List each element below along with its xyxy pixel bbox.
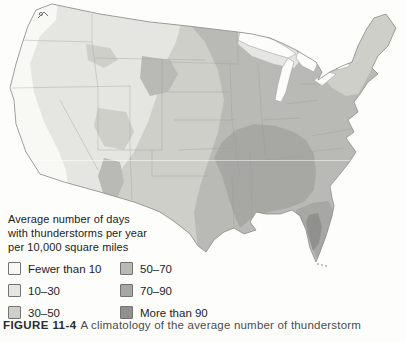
figure-label: FIGURE 11-4 — [3, 319, 76, 331]
legend-items: Fewer than 10 50–70 10–30 70–90 30–50 Mo… — [8, 261, 238, 320]
legend-swatch-70-90 — [120, 284, 133, 297]
region-newengland-30-50 — [322, 14, 396, 96]
legend-swatch-fewer-than-10 — [8, 262, 21, 275]
legend-item-70-90: 70–90 — [120, 284, 238, 297]
florida-keys — [317, 263, 327, 267]
legend-item-30-50: 30–50 — [8, 306, 120, 319]
legend-item-fewer-than-10: Fewer than 10 — [8, 262, 120, 275]
legend-label: 30–50 — [28, 307, 60, 319]
legend-label: 50–70 — [140, 263, 172, 275]
legend-title-line2: with thunderstorms per year — [8, 226, 238, 240]
legend-swatch-10-30 — [8, 284, 21, 297]
legend-item-50-70: 50–70 — [120, 262, 238, 275]
legend-item-10-30: 10–30 — [8, 284, 120, 297]
legend-label: 10–30 — [28, 285, 60, 297]
legend-label: Fewer than 10 — [28, 263, 102, 275]
legend-swatch-30-50 — [8, 306, 21, 319]
legend-title: Average number of days with thunderstorm… — [8, 212, 238, 254]
legend-label: More than 90 — [140, 307, 208, 319]
figure-caption: FIGURE 11-4A climatology of the average … — [3, 319, 405, 331]
legend-swatch-50-70 — [120, 262, 133, 275]
legend-title-line1: Average number of days — [8, 212, 238, 226]
figure-caption-text: A climatology of the average number of t… — [80, 319, 361, 331]
legend-item-more-than-90: More than 90 — [120, 306, 238, 319]
legend-swatch-more-than-90 — [120, 306, 133, 319]
map-legend: Average number of days with thunderstorm… — [8, 212, 238, 320]
legend-title-line3: per 10,000 square miles — [8, 240, 238, 254]
scan-artifact-line — [6, 160, 400, 161]
legend-label: 70–90 — [140, 285, 172, 297]
